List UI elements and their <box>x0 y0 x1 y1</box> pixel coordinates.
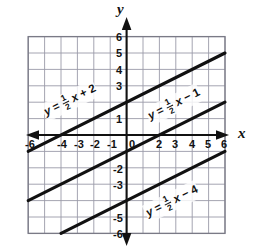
eq3-tail: − 4 <box>180 183 200 201</box>
x-tick-label-3: 3 <box>172 139 178 150</box>
y-axis-arrow-up <box>122 17 132 30</box>
y-tick-label--3: -3 <box>113 180 123 191</box>
y-tick-label--6: -6 <box>113 229 123 240</box>
x-tick-label--3: -3 <box>74 139 84 150</box>
eq3-equals: = <box>152 201 163 215</box>
eq2-equals: = <box>154 104 165 118</box>
y-tick-label--2: -2 <box>113 164 123 175</box>
y-tick-label-4: 4 <box>116 65 122 76</box>
y-axis-label: y <box>117 2 124 17</box>
x-tick-label-2: 2 <box>156 139 162 150</box>
eq1-tail: + 2 <box>78 82 98 100</box>
graph-canvas <box>0 0 259 246</box>
y-tick-label-5: 5 <box>116 48 122 59</box>
y-tick-label-3: 3 <box>116 81 122 92</box>
x-tick-label-0: 0 <box>129 139 135 150</box>
x-axis-label: x <box>238 126 246 141</box>
y-tick-label-1: 1 <box>116 114 122 125</box>
eq1-equals: = <box>50 100 61 114</box>
y-tick-label-6: 6 <box>116 32 122 43</box>
y-tick-label--5: -5 <box>113 213 123 224</box>
eq2-tail: − 1 <box>182 86 202 104</box>
x-tick-label-5: 5 <box>205 139 211 150</box>
x-tick-label--2: -2 <box>90 139 100 150</box>
x-tick-label-4: 4 <box>189 139 195 150</box>
x-tick-label-6: 6 <box>221 139 227 150</box>
x-tick-label--4: -4 <box>57 139 67 150</box>
y-axis-arrow-down <box>122 233 132 246</box>
x-tick-label--1: -1 <box>107 139 117 150</box>
x-tick-label--6: -6 <box>25 139 35 150</box>
coordinate-plane-figure: -6 -4 -3 -2 -1 0 2 3 4 5 6 6 5 4 3 1 0 -… <box>0 0 259 246</box>
